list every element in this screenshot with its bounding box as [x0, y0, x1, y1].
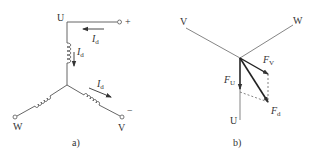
node-u-label: U [57, 12, 65, 23]
axis-v-label: V [180, 16, 188, 27]
vector-fd-label: Fd [270, 105, 281, 118]
diagram-canvas: + U Id Id W − V Id a) V W U [0, 0, 310, 158]
panel-a-star-winding: + U Id Id W − V Id a) [13, 12, 133, 149]
dashed-construction-diagonal [240, 92, 268, 102]
u-phase-coil [67, 43, 71, 63]
minus-sign: − [127, 105, 133, 116]
minus-terminal [120, 115, 124, 119]
w-terminal [13, 115, 17, 119]
vector-fu-label: FU [223, 74, 235, 87]
current-label-top: Id [91, 33, 99, 46]
axis-u-label: U [230, 115, 238, 126]
w-phase-branch [17, 85, 67, 116]
axis-w-label: W [293, 15, 303, 26]
v-axis [186, 28, 240, 58]
caption-b: b) [233, 137, 241, 149]
node-v-label: V [118, 122, 126, 133]
vector-fv-label: FV [262, 54, 274, 67]
current-label-u: Id [76, 46, 84, 59]
panel-b-phasor-diagram: V W U FV FU Fd b) [180, 15, 303, 149]
node-w-label: W [13, 121, 23, 132]
plus-sign: + [125, 16, 131, 27]
plus-terminal [118, 20, 122, 24]
current-label-v: Id [96, 78, 104, 91]
caption-a: a) [72, 137, 80, 149]
